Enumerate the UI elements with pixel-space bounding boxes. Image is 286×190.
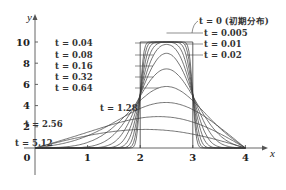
y-axis-arrow-icon [33,14,38,20]
label-t-0-32: t = 0.32 [55,72,93,82]
x-tick-label: 4 [242,152,249,163]
y-tick-label: 8 [23,58,30,69]
initial-distribution-curve [140,42,193,148]
y-tick-label: 10 [16,37,30,48]
label-t0-initial: t = 0 (初期分布) [199,16,269,26]
label-t-2-56: t = 2.56 [25,119,63,129]
label-t-5-12: t = 5.12 [15,138,53,148]
label-t-0-08: t = 0.08 [55,50,93,60]
x-tick-label: 0 [24,152,31,163]
x-tick-label: 2 [137,152,144,163]
y-tick-label: 6 [23,79,30,90]
heat-diffusion-chart: x y 01234 246810 t = 0 (初期分布)t = 0.005t … [0,0,286,190]
label-t-0-005: t = 0.005 [204,28,248,38]
label-t-0-01: t = 0.01 [204,39,242,49]
leader-line [192,21,198,33]
x-tick-label: 3 [189,152,196,163]
label-t-0-02: t = 0.02 [204,50,242,60]
label-t-0-16: t = 0.16 [55,61,93,71]
y-axis-label: y [26,11,32,23]
x-tick-label: 1 [84,152,91,163]
label-t-0-64: t = 0.64 [55,83,93,93]
x-axis-label: x [269,147,275,159]
x-axis-arrow-icon [262,146,268,151]
y-tick-label: 4 [23,100,30,111]
label-t-0-04: t = 0.04 [55,38,93,48]
label-t-1-28: t = 1.28 [100,103,138,113]
